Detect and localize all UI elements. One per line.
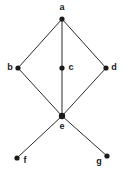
vertex-label-b: b bbox=[7, 62, 13, 72]
vertex-e[interactable] bbox=[59, 113, 65, 119]
edge-b-e bbox=[18, 68, 62, 116]
vertex-label-c: c bbox=[68, 62, 73, 72]
edge-e-f bbox=[17, 116, 62, 158]
vertex-label-d: d bbox=[111, 62, 117, 72]
edge-a-d bbox=[62, 19, 106, 68]
graph-diagram: abcdefg bbox=[0, 0, 124, 175]
vertex-f[interactable] bbox=[14, 155, 19, 160]
vertex-a[interactable] bbox=[59, 16, 64, 21]
edges-group bbox=[17, 19, 107, 158]
vertex-label-a: a bbox=[59, 2, 65, 12]
vertex-label-g: g bbox=[96, 156, 102, 166]
vertex-d[interactable] bbox=[103, 65, 108, 70]
vertex-label-f: f bbox=[24, 155, 28, 165]
edge-d-e bbox=[62, 68, 106, 116]
vertex-g[interactable] bbox=[104, 153, 109, 158]
graph-canvas: abcdefg bbox=[0, 0, 124, 175]
vertex-label-e: e bbox=[59, 121, 64, 131]
vertex-c[interactable] bbox=[59, 65, 64, 70]
edge-e-g bbox=[62, 116, 107, 156]
vertex-b[interactable] bbox=[15, 65, 20, 70]
edge-a-b bbox=[18, 19, 62, 68]
